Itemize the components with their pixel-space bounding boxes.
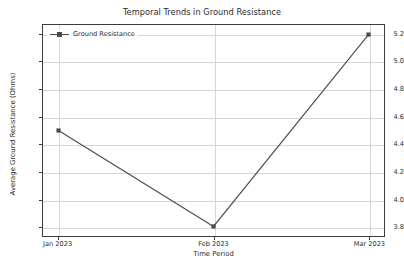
data-point-marker <box>56 128 60 132</box>
chart-figure: Temporal Trends in Ground Resistance Ave… <box>0 0 404 267</box>
series-markers-ground-resistance <box>56 33 370 229</box>
series-line-ground-resistance <box>58 35 368 227</box>
x-axis-label: Time Period <box>42 250 385 258</box>
x-axis-tick-label: Jan 2023 <box>43 240 72 248</box>
x-axis-tick-mark <box>369 237 370 240</box>
square-marker-icon <box>57 32 62 37</box>
y-axis-label: Average Ground Resistance (Ohms) <box>9 54 17 214</box>
line-sample-icon <box>50 30 69 38</box>
legend-item-label: Ground Resistance <box>73 30 135 38</box>
x-axis-tick-mark <box>214 237 215 240</box>
x-axis-tick-mark <box>58 237 59 240</box>
data-point-marker <box>366 33 370 37</box>
data-point-marker <box>211 224 215 228</box>
chart-legend: Ground Resistance <box>47 29 138 39</box>
chart-title: Temporal Trends in Ground Resistance <box>0 7 404 17</box>
x-axis-tick-label: Feb 2023 <box>198 240 229 248</box>
plot-area <box>42 24 385 237</box>
x-axis-tick-label: Mar 2023 <box>354 240 385 248</box>
data-series-layer <box>43 25 384 236</box>
